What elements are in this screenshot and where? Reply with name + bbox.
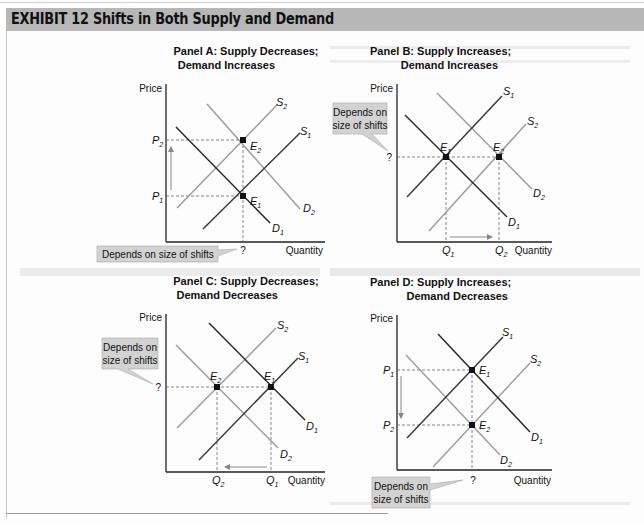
- panel-a-d2-curve: [207, 104, 300, 209]
- panel-a: Panel A: Supply Decreases; Demand Increa…: [97, 45, 325, 262]
- svg-text:Price: Price: [370, 313, 393, 324]
- panel-d-callout: Depends on size of shifts: [372, 477, 463, 508]
- panel-d-d1-curve: [438, 334, 530, 432]
- panel-a-s2-curve: [177, 105, 277, 208]
- svg-text:Depends on: Depends on: [333, 107, 387, 118]
- panel-c-title-line1: Panel C: Supply Decreases;: [173, 275, 319, 287]
- svg-text:E2: E2: [479, 419, 490, 433]
- svg-text:Q2: Q2: [495, 244, 508, 258]
- svg-text:size of shifts: size of shifts: [373, 494, 428, 505]
- panel-c-d1-curve: [209, 323, 305, 420]
- svg-text:P2: P2: [383, 419, 394, 433]
- svg-text:Quantity: Quantity: [514, 475, 551, 486]
- panel-a-title-line1: Panel A: Supply Decreases;: [173, 45, 318, 57]
- bottom-rule: [6, 513, 388, 514]
- panel-c-title-line2: Demand Decreases: [176, 289, 278, 301]
- svg-text:?: ?: [386, 152, 392, 163]
- svg-text:Q1: Q1: [442, 244, 455, 258]
- panel-c-callout: Depends on size of shifts: [102, 338, 158, 384]
- svg-text:size of shifts: size of shifts: [332, 120, 387, 131]
- svg-text:D2: D2: [280, 448, 292, 462]
- svg-text:P1: P1: [152, 190, 163, 204]
- svg-text:E1: E1: [264, 370, 275, 384]
- svg-text:S2: S2: [530, 353, 541, 367]
- panel-c-d2-curve: [176, 345, 278, 448]
- panel-d-s2-curve: [433, 363, 530, 467]
- svg-text:Depends on: Depends on: [103, 342, 157, 353]
- svg-text:E2: E2: [493, 141, 504, 155]
- panel-b: Panel B: Supply Increases; Demand Increa…: [332, 45, 552, 258]
- svg-text:Depends on: Depends on: [374, 481, 428, 492]
- svg-text:D2: D2: [500, 454, 512, 468]
- panel-b-title-line1: Panel B: Supply Increases;: [370, 45, 511, 57]
- panel-c-s2-curve: [177, 328, 276, 428]
- svg-text:D1: D1: [306, 420, 318, 434]
- svg-text:Depends on size of shifts: Depends on size of shifts: [102, 249, 214, 260]
- svg-text:E1: E1: [250, 195, 261, 209]
- svg-text:D1: D1: [272, 222, 284, 236]
- svg-text:S1: S1: [503, 85, 514, 99]
- svg-text:Quantity: Quantity: [288, 475, 325, 486]
- panel-a-quantity-label: Quantity: [286, 245, 323, 256]
- panel-c: Panel C: Supply Decreases; Demand Decrea…: [102, 275, 325, 488]
- svg-text:?: ?: [240, 245, 246, 256]
- svg-text:D1: D1: [531, 431, 543, 445]
- panel-a-e1-point: [240, 193, 246, 199]
- svg-text:?: ?: [155, 382, 161, 393]
- svg-text:D1: D1: [508, 216, 520, 230]
- svg-text:S1: S1: [300, 125, 311, 139]
- svg-text:P1: P1: [383, 364, 394, 378]
- panel-a-e2-point: [240, 137, 246, 143]
- panel-b-title-line2: Demand Increases: [401, 59, 498, 71]
- svg-text:E2: E2: [250, 140, 261, 154]
- panel-a-price-label: Price: [139, 83, 162, 94]
- svg-text:S2: S2: [527, 115, 538, 129]
- svg-text:P2: P2: [152, 134, 163, 148]
- panel-a-title-line2: Demand Increases: [178, 59, 275, 71]
- panel-d-title-line2: Demand Decreases: [406, 290, 508, 302]
- svg-text:Price: Price: [139, 312, 162, 323]
- svg-text:?: ?: [470, 475, 476, 486]
- svg-text:E2: E2: [210, 370, 221, 384]
- svg-text:Q2: Q2: [212, 474, 225, 488]
- svg-text:S1: S1: [298, 350, 309, 364]
- svg-text:Quantity: Quantity: [515, 245, 552, 256]
- svg-text:S2: S2: [276, 96, 287, 110]
- svg-text:Q1: Q1: [266, 474, 279, 488]
- svg-text:D2: D2: [533, 187, 545, 201]
- panel-a-callout: Depends on size of shifts: [97, 246, 237, 262]
- panel-d: Panel D: Supply Increases; Demand Decrea…: [370, 276, 552, 508]
- supply-demand-figure: Panel A: Supply Decreases; Demand Increa…: [0, 0, 644, 525]
- svg-text:size of shifts: size of shifts: [102, 355, 157, 366]
- svg-text:E1: E1: [440, 141, 451, 155]
- svg-text:S2: S2: [277, 319, 288, 333]
- svg-text:S1: S1: [502, 326, 513, 340]
- svg-text:Price: Price: [370, 83, 393, 94]
- svg-text:E1: E1: [479, 364, 490, 378]
- panel-d-title-line1: Panel D: Supply Increases;: [370, 276, 511, 288]
- svg-text:D2: D2: [303, 202, 315, 216]
- panel-b-d2-curve: [437, 93, 532, 189]
- panel-b-callout: Depends on size of shifts: [332, 103, 388, 151]
